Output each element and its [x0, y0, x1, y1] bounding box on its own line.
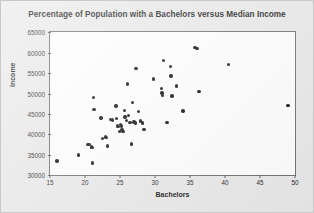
- x-tick-mark: [84, 175, 85, 178]
- data-point: [55, 159, 58, 162]
- x-tick-mark: [224, 175, 225, 178]
- data-point: [152, 77, 155, 80]
- data-point: [162, 59, 165, 62]
- data-point: [161, 94, 164, 97]
- data-point: [195, 47, 198, 50]
- data-point: [92, 108, 95, 111]
- x-tick-label: 40: [221, 179, 228, 186]
- y-tick-40000: 40000: [27, 125, 50, 143]
- chart-title: Percentage of Population with a Bachelor…: [1, 10, 313, 19]
- y-tick-55000: 55000: [27, 64, 50, 82]
- data-point: [169, 65, 172, 68]
- y-axis-label: Income: [9, 62, 16, 87]
- data-point: [127, 114, 130, 117]
- chart-figure: Percentage of Population with a Bachelor…: [0, 0, 314, 213]
- x-tick-label: 45: [256, 179, 263, 186]
- x-tick-mark: [119, 175, 120, 178]
- data-point: [114, 104, 117, 107]
- data-point: [169, 74, 172, 77]
- x-tick-mark: [49, 175, 50, 178]
- x-tick-40: 40: [221, 175, 228, 186]
- data-point: [111, 118, 114, 121]
- data-point: [91, 161, 94, 164]
- data-point: [134, 121, 137, 124]
- scatter-points-layer: [50, 32, 295, 175]
- data-point: [121, 130, 124, 133]
- data-point: [115, 117, 118, 120]
- y-tick-label: 55000: [27, 70, 45, 77]
- x-tick-label: 50: [291, 179, 298, 186]
- x-tick-20: 20: [81, 175, 88, 186]
- data-point: [142, 128, 145, 131]
- data-point: [105, 136, 108, 139]
- data-point: [134, 67, 137, 70]
- x-tick-50: 50: [291, 175, 298, 186]
- y-tick-45000: 45000: [27, 105, 50, 123]
- data-point: [197, 90, 200, 93]
- x-tick-label: 35: [186, 179, 193, 186]
- data-point: [170, 94, 173, 97]
- data-point: [160, 87, 163, 90]
- y-tick-label: 35000: [27, 152, 45, 159]
- data-point: [130, 142, 133, 145]
- y-tick-label: 60000: [27, 50, 45, 57]
- data-point: [106, 144, 109, 147]
- data-point: [92, 96, 95, 99]
- data-point: [99, 116, 102, 119]
- data-point: [227, 63, 230, 66]
- x-tick-label: 20: [81, 179, 88, 186]
- y-tick-50000: 50000: [27, 84, 50, 102]
- x-tick-label: 30: [151, 179, 158, 186]
- y-tick-label: 50000: [27, 91, 45, 98]
- x-tick-mark: [259, 175, 260, 178]
- data-point: [286, 104, 289, 107]
- x-tick-15: 15: [46, 175, 53, 186]
- data-point: [120, 124, 123, 127]
- x-tick-45: 45: [256, 175, 263, 186]
- x-tick-35: 35: [186, 175, 193, 186]
- data-point: [90, 146, 93, 149]
- data-point: [181, 109, 184, 112]
- x-tick-label: 25: [116, 179, 123, 186]
- x-axis-label: Bachelors: [49, 191, 296, 198]
- x-tick-mark: [294, 175, 295, 178]
- data-point: [141, 121, 144, 124]
- x-tick-label: 15: [46, 179, 53, 186]
- plot-area: 3000035000400004500050000550006000065000…: [49, 31, 296, 176]
- data-point: [128, 121, 131, 124]
- x-tick-25: 25: [116, 175, 123, 186]
- data-point: [77, 153, 80, 156]
- data-point: [137, 110, 140, 113]
- data-point: [131, 101, 134, 104]
- y-tick-65000: 65000: [27, 23, 50, 41]
- y-tick-35000: 35000: [27, 146, 50, 164]
- data-point: [175, 84, 178, 87]
- x-tick-mark: [189, 175, 190, 178]
- y-tick-label: 65000: [27, 29, 45, 36]
- data-point: [123, 109, 126, 112]
- y-tick-60000: 60000: [27, 43, 50, 61]
- data-point: [165, 121, 168, 124]
- x-tick-30: 30: [151, 175, 158, 186]
- y-tick-label: 40000: [27, 131, 45, 138]
- y-tick-label: 45000: [27, 111, 45, 118]
- x-tick-mark: [154, 175, 155, 178]
- data-point: [126, 82, 129, 85]
- y-tick-label: 30000: [27, 172, 45, 179]
